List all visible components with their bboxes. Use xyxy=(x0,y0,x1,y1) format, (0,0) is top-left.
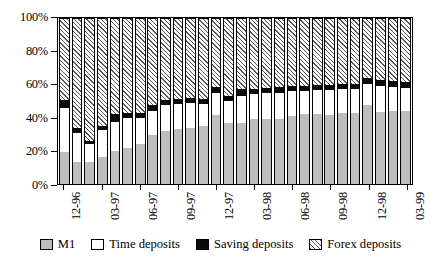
x-axis-tick-mark xyxy=(369,185,370,190)
stacked-bar-chart: 0%20%40%60%80%100% 12-9603-9706-9709-971… xyxy=(0,0,441,258)
x-axis-tick-mark xyxy=(254,185,255,190)
x-axis-tick-label: 06-97 xyxy=(146,192,161,220)
forex-deposits-swatch xyxy=(309,239,322,250)
x-axis-tick-label: 12-96 xyxy=(69,192,84,220)
legend-item-time-deposits: Time deposits xyxy=(91,237,180,252)
x-axis-tick-mark xyxy=(330,185,331,190)
x-axis-tick-label: 03-99 xyxy=(413,192,428,220)
legend-item-m1: M1 xyxy=(40,237,76,252)
x-axis-tick-mark xyxy=(178,185,179,190)
x-axis-tick-label: 06-98 xyxy=(298,192,313,220)
legend-item-saving-deposits: Saving deposits xyxy=(196,237,293,252)
legend-label: Saving deposits xyxy=(214,237,293,252)
x-axis-tick-label: 09-97 xyxy=(184,192,199,220)
x-axis-tick-mark xyxy=(407,185,408,190)
time-deposits-swatch xyxy=(91,239,104,250)
x-axis-tick-mark xyxy=(140,185,141,190)
x-axis-tick-label: 12-98 xyxy=(375,192,390,220)
x-axis-tick-mark xyxy=(292,185,293,190)
x-axis-tick-label: 12-97 xyxy=(222,192,237,220)
m1-swatch xyxy=(40,239,53,250)
legend-label: Forex deposits xyxy=(327,237,401,252)
saving-deposits-swatch xyxy=(196,239,209,250)
legend-label: Time deposits xyxy=(109,237,180,252)
x-axis-tick-label: 09-98 xyxy=(336,192,351,220)
x-axis-tick-mark xyxy=(63,185,64,190)
chart-legend: M1Time depositsSaving depositsForex depo… xyxy=(0,234,441,254)
legend-label: M1 xyxy=(58,237,76,252)
x-axis: 12-9603-9706-9709-9712-9703-9806-9809-98… xyxy=(0,0,441,258)
legend-item-forex-deposits: Forex deposits xyxy=(309,237,401,252)
x-axis-tick-label: 03-97 xyxy=(108,192,123,220)
x-axis-tick-mark xyxy=(216,185,217,190)
x-axis-tick-mark xyxy=(102,185,103,190)
x-axis-tick-label: 03-98 xyxy=(260,192,275,220)
